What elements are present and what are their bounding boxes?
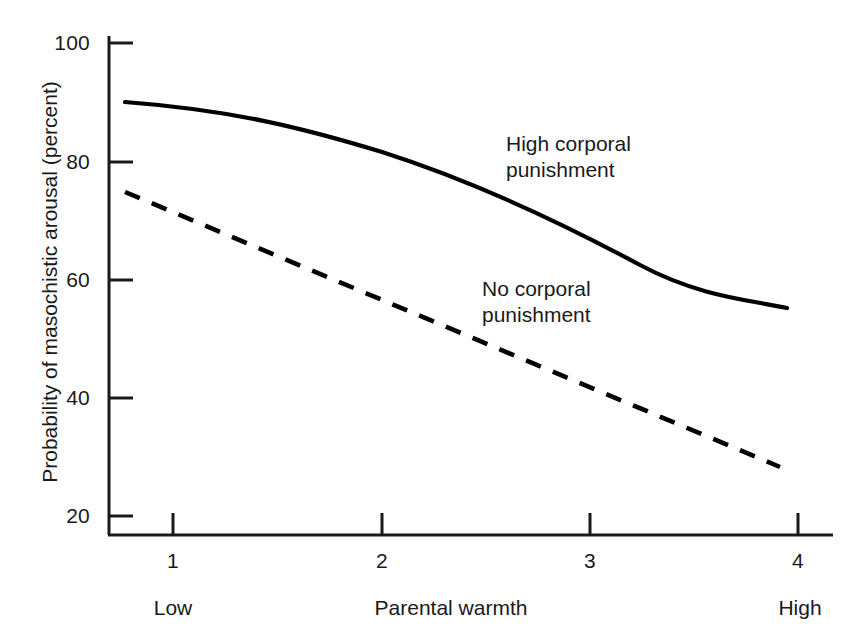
- chart-plot-area: [0, 0, 862, 641]
- x-axis-low-label: Low: [133, 596, 213, 620]
- chart-figure: 100 80 60 40 20 1 2 3 4 Low High Parenta…: [0, 0, 862, 641]
- x-tick-label-4: 4: [768, 549, 828, 573]
- x-tick-label-2: 2: [352, 549, 412, 573]
- x-tick-label-3: 3: [560, 549, 620, 573]
- series-line-high-corporal-punishment: [125, 102, 787, 308]
- y-tick-label-100: 100: [30, 31, 90, 55]
- y-tick-label-20: 20: [30, 504, 90, 528]
- x-tick-label-1: 1: [143, 549, 203, 573]
- series-annotation-no-line1: No corporal: [482, 276, 591, 302]
- series-annotation-high-corporal-punishment: High corporal punishment: [506, 131, 631, 183]
- x-axis-high-label: High: [760, 596, 840, 620]
- series-annotation-no-line2: punishment: [482, 302, 591, 328]
- series-line-no-corporal-punishment: [125, 192, 780, 467]
- series-annotation-high-line1: High corporal: [506, 131, 631, 157]
- series-annotation-high-line2: punishment: [506, 157, 631, 183]
- x-axis-title: Parental warmth: [331, 596, 571, 620]
- y-axis-title: Probability of masochistic arousal (perc…: [38, 72, 62, 492]
- series-annotation-no-corporal-punishment: No corporal punishment: [482, 276, 591, 328]
